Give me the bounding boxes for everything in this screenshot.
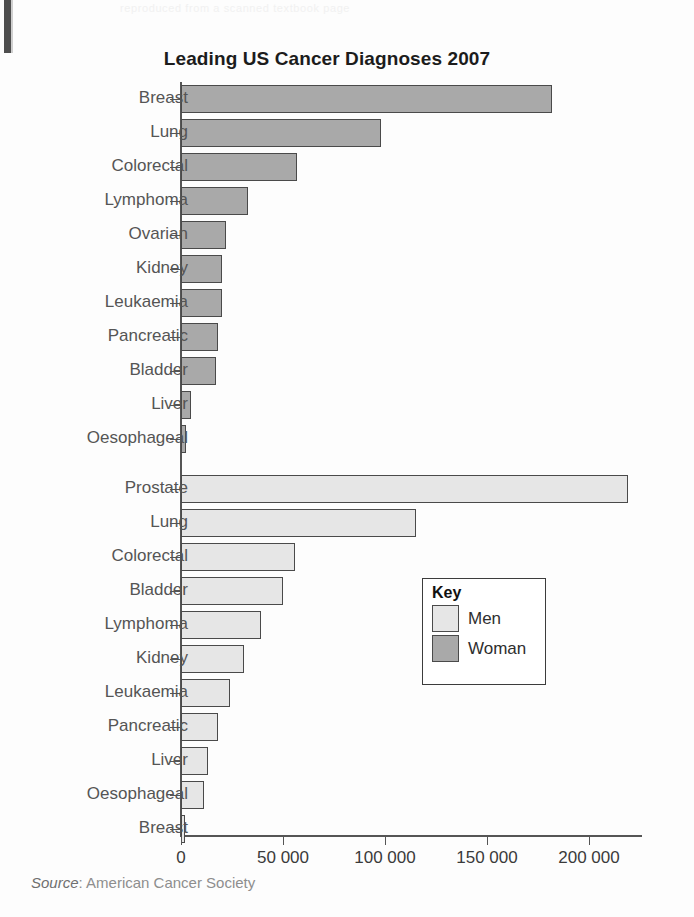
y-axis-tick <box>170 133 181 134</box>
bar-woman-lymphoma <box>181 187 248 215</box>
x-axis-tick-label: 150 000 <box>456 848 517 868</box>
y-axis-tick <box>170 523 181 524</box>
y-axis-label-men-pancreatic: Pancreatic <box>108 716 188 736</box>
source-note: Source: American Cancer Society <box>31 874 255 891</box>
y-axis-label-woman-oesophageal: Oesophageal <box>87 428 188 448</box>
legend-entry-men: Men <box>432 605 545 632</box>
legend-title: Key <box>432 584 545 602</box>
x-axis-tick <box>487 836 488 845</box>
y-axis-label-men-kidney: Kidney <box>136 648 188 668</box>
y-axis-tick <box>170 201 181 202</box>
y-axis-label-woman-ovarian: Ovarian <box>128 224 188 244</box>
plot-area: BreastLungColorectalLymphomaOvarianKidne… <box>0 0 694 917</box>
y-axis-label-men-breast: Breast <box>139 818 188 838</box>
y-axis-tick <box>170 659 181 660</box>
x-axis-tick-label: 100 000 <box>354 848 415 868</box>
bar-men-kidney <box>181 645 244 673</box>
y-axis-tick <box>170 235 181 236</box>
y-axis-tick <box>170 405 181 406</box>
y-axis-label-men-bladder: Bladder <box>129 580 188 600</box>
y-axis-label-woman-pancreatic: Pancreatic <box>108 326 188 346</box>
y-axis-label-men-prostate: Prostate <box>125 478 188 498</box>
x-axis-tick <box>181 836 182 845</box>
y-axis-label-woman-lymphoma: Lymphoma <box>105 190 188 210</box>
bar-men-lymphoma <box>181 611 261 639</box>
y-axis-tick <box>170 303 181 304</box>
y-axis-label-woman-bladder: Bladder <box>129 360 188 380</box>
x-axis-tick <box>283 836 284 845</box>
y-axis-label-men-lung: Lung <box>150 512 188 532</box>
y-axis-tick <box>170 625 181 626</box>
bar-men-leukaemia <box>181 679 230 707</box>
source-text: American Cancer Society <box>86 874 255 891</box>
y-axis-tick <box>170 761 181 762</box>
y-axis-tick <box>170 557 181 558</box>
y-axis-tick <box>170 371 181 372</box>
y-axis-tick <box>170 829 181 830</box>
bar-men-lung <box>181 509 416 537</box>
bar-men-colorectal <box>181 543 295 571</box>
y-axis-tick <box>170 489 181 490</box>
x-axis-tick-label: 200 000 <box>558 848 619 868</box>
y-axis-tick <box>170 167 181 168</box>
y-axis-label-men-leukaemia: Leukaemia <box>105 682 188 702</box>
bar-men-bladder <box>181 577 283 605</box>
bar-woman-lung <box>181 119 381 147</box>
legend-swatch-woman <box>432 635 459 662</box>
source-label: Source <box>31 874 79 891</box>
bar-men-prostate <box>181 475 628 503</box>
legend-label-men: Men <box>468 609 501 629</box>
y-axis-tick <box>170 99 181 100</box>
y-axis-label-woman-leukaemia: Leukaemia <box>105 292 188 312</box>
x-axis-line <box>180 835 642 837</box>
y-axis-tick <box>170 727 181 728</box>
bar-woman-colorectal <box>181 153 297 181</box>
y-axis-label-woman-lung: Lung <box>150 122 188 142</box>
legend-entry-woman: Woman <box>432 635 545 662</box>
y-axis-label-men-liver: Liver <box>151 750 188 770</box>
y-axis-tick <box>170 439 181 440</box>
x-axis-tick <box>385 836 386 845</box>
y-axis-label-woman-breast: Breast <box>139 88 188 108</box>
y-axis-label-men-colorectal: Colorectal <box>111 546 188 566</box>
y-axis-label-men-lymphoma: Lymphoma <box>105 614 188 634</box>
y-axis-tick <box>170 693 181 694</box>
y-axis-label-men-oesophageal: Oesophageal <box>87 784 188 804</box>
bar-woman-breast <box>181 85 552 113</box>
y-axis-label-woman-colorectal: Colorectal <box>111 156 188 176</box>
y-axis-label-woman-kidney: Kidney <box>136 258 188 278</box>
chart-page: reproduced from a scanned textbook page … <box>0 0 694 917</box>
y-axis-tick <box>170 337 181 338</box>
source-separator: : <box>79 874 87 891</box>
legend-swatch-men <box>432 605 459 632</box>
y-axis-tick <box>170 795 181 796</box>
x-axis-tick-label: 0 <box>176 848 185 868</box>
x-axis-tick-label: 50 000 <box>257 848 309 868</box>
y-axis-label-woman-liver: Liver <box>151 394 188 414</box>
y-axis-tick <box>170 269 181 270</box>
legend-label-woman: Woman <box>468 639 526 659</box>
legend-key-box: Key Men Woman <box>422 578 546 685</box>
y-axis-tick <box>170 591 181 592</box>
x-axis-tick <box>589 836 590 845</box>
